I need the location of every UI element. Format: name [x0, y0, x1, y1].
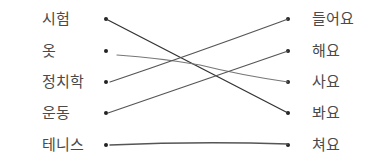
left-dot [104, 80, 108, 84]
matching-lines [0, 0, 384, 163]
match-line [106, 19, 288, 113]
left-dot [104, 143, 108, 147]
match-line [110, 19, 288, 82]
match-line [110, 143, 288, 145]
left-dot [104, 49, 108, 53]
match-line [108, 51, 288, 113]
